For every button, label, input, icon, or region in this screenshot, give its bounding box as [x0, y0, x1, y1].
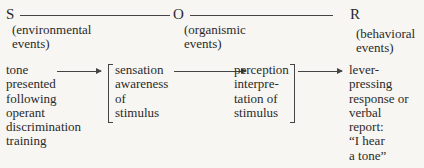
- arrow-to-sensation: [57, 71, 101, 72]
- response-text: lever- pressing response or verbal repor…: [349, 63, 409, 163]
- sensation-text: sensation awareness of stimulus: [115, 63, 168, 120]
- perception-bracket: [290, 64, 295, 123]
- o-label: (organismic events): [184, 23, 246, 52]
- r-label: (behavioral events): [356, 27, 415, 56]
- arrow-to-response: [298, 71, 342, 72]
- o-letter: O: [173, 7, 184, 22]
- s-to-o-line: [20, 15, 170, 16]
- o-to-r-line: [190, 15, 333, 16]
- s-letter: S: [6, 7, 14, 22]
- perception-text: perception interpre- tation of stimulus: [234, 63, 289, 120]
- r-letter: R: [350, 7, 360, 22]
- stimulus-text: tone presented following operant discrim…: [6, 63, 81, 149]
- sensation-bracket: [108, 64, 113, 123]
- s-label: (environmental events): [12, 23, 91, 52]
